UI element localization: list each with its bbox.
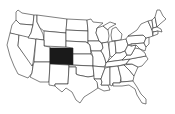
state-colorado xyxy=(50,48,73,65)
states-layer xyxy=(7,10,166,104)
state-connecticut xyxy=(153,31,158,36)
state-new-mexico xyxy=(49,64,69,86)
state-montana xyxy=(37,15,67,33)
state-florida xyxy=(113,81,146,104)
state-north-dakota xyxy=(66,19,88,31)
state-wyoming xyxy=(44,31,66,47)
state-kansas xyxy=(73,54,93,66)
state-arizona xyxy=(30,62,50,82)
us-map xyxy=(0,0,175,114)
state-maine xyxy=(155,10,166,27)
